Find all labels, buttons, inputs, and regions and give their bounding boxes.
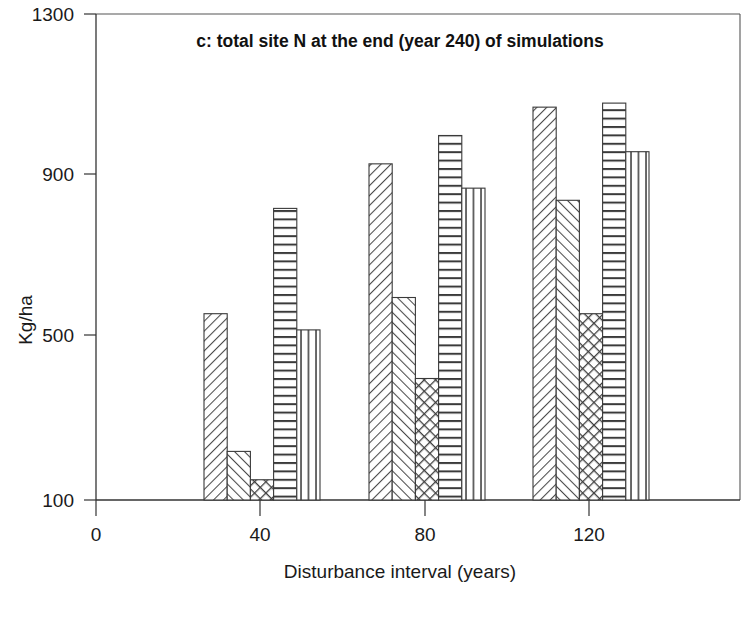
- y-tick-label-900: 900: [42, 164, 74, 185]
- bar-40-series-3: [250, 480, 273, 500]
- x-tick-label-120: 120: [573, 524, 605, 545]
- bar-80-series-3: [415, 379, 438, 501]
- bar-120-series-3: [579, 314, 602, 500]
- y-tick-label-1300: 1300: [32, 4, 74, 25]
- bar-40-series-2: [227, 451, 250, 500]
- bar-120-series-2: [556, 200, 579, 500]
- bar-80-series-4: [439, 136, 462, 501]
- y-tick-label-500: 500: [42, 325, 74, 346]
- bar-80-series-2: [392, 298, 415, 501]
- x-tick-label-80: 80: [414, 524, 435, 545]
- y-axis-title: Kg/ha: [15, 295, 36, 345]
- x-axis-title: Disturbance interval (years): [284, 561, 516, 582]
- y-tick-label-100: 100: [42, 490, 74, 511]
- x-tick-label-40: 40: [249, 524, 270, 545]
- bar-120-series-4: [603, 103, 626, 500]
- bar-120-series-1: [533, 107, 556, 500]
- bar-80-series-1: [369, 164, 392, 500]
- x-tick-label-0: 0: [91, 524, 102, 545]
- bar-40-series-5: [297, 330, 320, 500]
- chart-title: c: total site N at the end (year 240) of…: [196, 31, 604, 51]
- chart-svg: 1300 900 500 100 Kg/ha 0 40 80 120 Distu…: [0, 0, 748, 634]
- chart-figure: 1300 900 500 100 Kg/ha 0 40 80 120 Distu…: [0, 0, 748, 634]
- bar-40-series-1: [204, 314, 227, 500]
- bar-120-series-5: [626, 152, 649, 500]
- bar-80-series-5: [462, 188, 485, 500]
- bar-40-series-4: [274, 208, 297, 500]
